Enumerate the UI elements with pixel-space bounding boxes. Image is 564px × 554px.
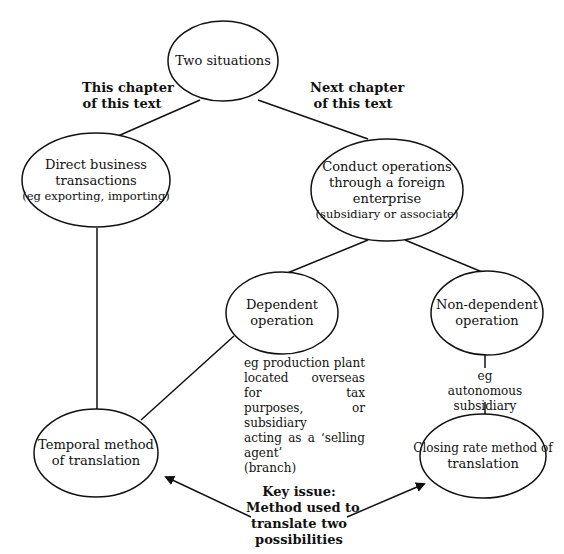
node-conduct-sub: (subsidiary or associate) (316, 207, 459, 222)
node-direct-line-2: transactions (55, 173, 137, 189)
node-conduct-line-1: Conduct operations (322, 159, 452, 175)
label-next-chapter-line-2: of this text (310, 96, 396, 112)
node-conduct-line-2: through a foreign (329, 175, 445, 191)
node-temporal-line-1: Temporal method (38, 437, 154, 453)
node-nondependent-line-1: Non-dependent (436, 297, 538, 313)
node-dependent-line-2: operation (250, 313, 313, 329)
note-dependent-line-2: located overseas for tax (244, 371, 365, 401)
node-dependent-operation: Dependent operation (226, 272, 338, 354)
label-next-chapter-line-1: Next chapter (310, 80, 396, 96)
note-dependent-line-3: purposes, or subsidiary (244, 401, 365, 431)
note-dependent-line-4: acting as a ‘selling agent’ (244, 431, 365, 461)
node-nondependent-line-2: operation (455, 313, 518, 329)
edge-conduct-dependent (280, 240, 368, 276)
edge-conduct-nondependent (405, 240, 487, 274)
node-conduct-line-3: enterprise (353, 191, 421, 207)
note-dependent-example: eg production plant located overseas for… (244, 356, 365, 476)
node-closing-rate-method: Closing rate method of translation (420, 414, 546, 498)
key-issue-label: Key issue: Method used to translate two … (246, 484, 352, 548)
node-two-situations-line-1: Two situations (175, 53, 271, 69)
node-dependent-line-1: Dependent (246, 297, 318, 313)
node-direct-line-1: Direct business (45, 157, 147, 173)
node-two-situations: Two situations (168, 21, 278, 101)
note-dependent-line-5: (branch) (244, 461, 365, 476)
node-closing-line-1: Closing rate method of (413, 440, 553, 456)
key-issue-line-2: Method used to (246, 500, 352, 516)
node-temporal-method: Temporal method of translation (34, 409, 158, 497)
node-non-dependent-operation: Non-dependent operation (431, 271, 543, 355)
key-issue-line-4: possibilities (246, 532, 352, 548)
node-conduct-operations: Conduct operations through a foreign ent… (311, 139, 463, 241)
note-dependent-line-1: eg production plant (244, 356, 365, 371)
note-nondependent-example: eg autonomous subsidiary (440, 369, 530, 414)
note-nondependent-line-1: eg autonomous (440, 369, 530, 399)
node-closing-line-2: translation (447, 456, 519, 472)
label-next-chapter: Next chapter of this text (310, 80, 396, 112)
key-issue-line-3: translate two (246, 516, 352, 532)
note-nondependent-line-2: subsidiary (440, 399, 530, 414)
key-issue-line-1: Key issue: (246, 484, 352, 500)
node-direct-business: Direct business transactions (eg exporti… (22, 133, 170, 227)
arrow-to-temporal (166, 477, 251, 517)
label-this-chapter: This chapter of this text (82, 80, 162, 112)
node-direct-sub: (eg exporting, importing) (22, 189, 170, 204)
label-this-chapter-line-2: of this text (82, 96, 162, 112)
node-temporal-line-2: of translation (52, 453, 141, 469)
edge-dependent-temporal (141, 336, 234, 420)
label-this-chapter-line-1: This chapter (82, 80, 162, 96)
